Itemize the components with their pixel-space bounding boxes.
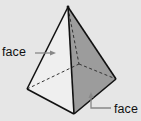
front-left-face <box>27 7 74 114</box>
pyramid-diagram: face face <box>0 0 141 121</box>
face-label-left: face <box>2 46 26 59</box>
face-label-right: face <box>114 103 138 116</box>
apex-vertex <box>67 6 70 9</box>
